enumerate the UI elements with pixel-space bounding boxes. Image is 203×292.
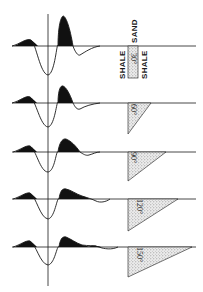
seismic-wedge-figure xyxy=(0,0,203,292)
angle-label-120: 120° xyxy=(135,199,144,214)
shale-label-left: SHALE xyxy=(118,50,127,79)
angle-label-90: 90° xyxy=(129,152,138,163)
angle-label-60: 60° xyxy=(129,104,138,115)
panel-30 xyxy=(12,16,196,78)
panel-90 xyxy=(12,139,196,181)
angle-label-30: 30° xyxy=(129,53,138,64)
panel-120 xyxy=(12,189,196,231)
shale-label-right: SHALE xyxy=(140,50,149,79)
angle-label-150: 150° xyxy=(135,247,144,262)
sand-label: SAND xyxy=(130,19,139,43)
panel-60 xyxy=(12,86,196,134)
panel-150 xyxy=(12,237,196,277)
